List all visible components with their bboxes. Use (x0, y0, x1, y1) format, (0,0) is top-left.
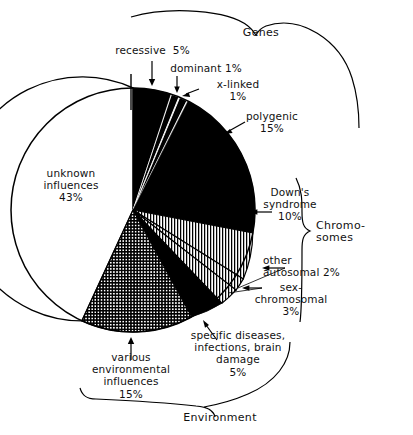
label-dominant: dominant 1% (156, 62, 256, 74)
label-environmental: various environmental influences 15% (64, 351, 198, 400)
group-label-chromosomes: Chromo- somes (316, 220, 410, 244)
group-label-environment: Environment (168, 412, 272, 424)
leader-x-linked (182, 89, 199, 97)
label-recessive: recessive 5% (100, 44, 205, 56)
pie-chart-figure: recessive 5% dominant 1% x-linked 1% pol… (0, 0, 413, 435)
group-label-genes: Genes (228, 27, 294, 39)
label-unknown-influences: unknown influences 43% (23, 167, 119, 204)
label-other-autosomal: other autosomal 2% (263, 254, 379, 278)
label-downs-syndrome: Down's syndrome 10% (252, 186, 328, 223)
label-x-linked: x-linked 1% (200, 78, 276, 102)
label-sex-chromosomal: sex- chromosomal 3% (243, 281, 339, 318)
label-polygenic: polygenic 15% (230, 110, 314, 134)
leader-recessive (149, 61, 155, 86)
leader-dominant (174, 76, 180, 93)
